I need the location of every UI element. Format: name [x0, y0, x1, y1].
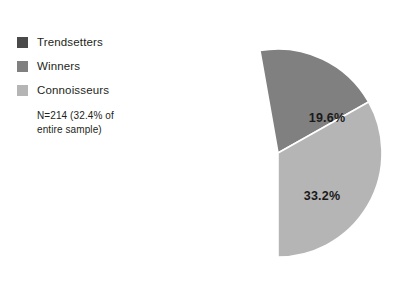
pie-slice-winners[interactable]: [260, 49, 369, 153]
slice-label-winners: 19.6%: [309, 111, 345, 125]
legend-label-winners: Winners: [37, 60, 80, 73]
sample-size-note-line-2: entire sample): [37, 123, 145, 137]
legend-swatch-trendsetters: [17, 37, 28, 48]
legend-swatch-winners: [17, 61, 28, 72]
sample-size-note: N=214 (32.4% of entire sample): [37, 109, 145, 136]
legend-item-trendsetters[interactable]: Trendsetters: [17, 30, 167, 54]
pie-chart-figure: Trendsetters Winners Connoisseurs N=214 …: [0, 0, 418, 290]
pie-slices: [260, 49, 382, 257]
legend-swatch-connoisseurs: [17, 85, 28, 96]
chart-legend: Trendsetters Winners Connoisseurs N=214 …: [17, 30, 167, 136]
slice-label-trendsetters: 47.2%: [204, 147, 240, 161]
pie-slice-connoisseurs[interactable]: [278, 102, 382, 257]
slice-label-connoisseurs: 33.2%: [304, 189, 340, 203]
sunburst-rays: [148, 23, 408, 283]
legend-item-connoisseurs[interactable]: Connoisseurs: [17, 78, 167, 102]
sample-size-note-line-1: N=214 (32.4% of: [37, 109, 145, 123]
legend-label-connoisseurs: Connoisseurs: [37, 84, 109, 97]
pie-slice-trendsetters[interactable]: [260, 49, 382, 257]
legend-item-winners[interactable]: Winners: [17, 54, 167, 78]
legend-label-trendsetters: Trendsetters: [37, 36, 103, 49]
